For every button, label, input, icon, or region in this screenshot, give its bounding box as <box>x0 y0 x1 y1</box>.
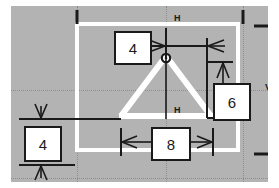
horizontal-constraint-icon[interactable]: H <box>174 106 180 115</box>
sketch-canvas[interactable]: 4 4 6 8 H H V <box>11 6 268 182</box>
horizontal-constraint-icon[interactable]: H <box>174 14 180 23</box>
dimension-value-4-left[interactable]: 4 <box>24 126 62 162</box>
dimension-value-8-bottom[interactable]: 8 <box>151 127 191 161</box>
sketch-viewport: 4 4 6 8 H H V <box>0 0 279 188</box>
dimension-value-4-top[interactable]: 4 <box>114 31 152 65</box>
dimension-value-6-right[interactable]: 6 <box>213 83 251 121</box>
vertical-constraint-icon[interactable]: V <box>265 83 268 92</box>
